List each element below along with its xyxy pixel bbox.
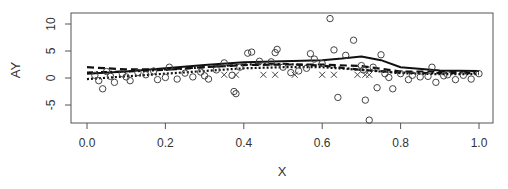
data-point-circle — [99, 86, 105, 92]
data-point-cross — [366, 72, 372, 78]
plot-frame — [71, 13, 493, 123]
x-tick-label: 0.0 — [79, 136, 96, 150]
data-point-circle — [96, 78, 102, 84]
y-axis-label: AY — [8, 61, 23, 78]
data-point-circle — [162, 74, 168, 80]
y-tick-label: -5 — [44, 99, 58, 110]
data-point-circle — [127, 78, 133, 84]
y-axis: -50510 — [44, 17, 71, 110]
data-point-circle — [433, 79, 439, 85]
fit-lines — [87, 56, 479, 79]
data-point-circle — [331, 47, 337, 53]
x-axis: 0.00.20.40.60.81.0 — [79, 123, 488, 150]
data-point-circle — [111, 79, 117, 85]
y-tick-label: 0 — [44, 74, 58, 81]
data-point-circle — [190, 74, 196, 80]
data-point-cross — [319, 72, 325, 78]
x-tick-label: 0.4 — [235, 136, 252, 150]
data-point-cross — [331, 72, 337, 78]
data-point-circle — [405, 76, 411, 82]
data-point-circle — [154, 76, 160, 82]
data-point-cross — [233, 72, 239, 78]
x-axis-label: X — [278, 164, 287, 179]
y-tick-label: 5 — [44, 47, 58, 54]
data-point-circle — [248, 49, 254, 55]
x-tick-label: 1.0 — [471, 136, 488, 150]
data-point-circle — [327, 15, 333, 21]
data-point-circle — [366, 117, 372, 123]
data-point-cross — [221, 72, 227, 78]
data-point-circle — [386, 74, 392, 80]
scatter-plot: 0.00.20.40.60.81.0 -50510 X AY — [0, 0, 508, 189]
data-point-circle — [174, 76, 180, 82]
data-point-circle — [362, 97, 368, 103]
x-tick-label: 0.2 — [157, 136, 174, 150]
x-tick-label: 0.8 — [392, 136, 409, 150]
data-point-circle — [335, 94, 341, 100]
data-point-cross — [354, 72, 360, 78]
data-point-circle — [452, 76, 458, 82]
data-point-circle — [390, 86, 396, 92]
data-point-circle — [350, 37, 356, 43]
data-point-circle — [468, 76, 474, 82]
data-point-cross — [260, 72, 266, 78]
x-tick-label: 0.6 — [314, 136, 331, 150]
data-point-circle — [374, 85, 380, 91]
y-tick-label: 10 — [44, 17, 58, 31]
data-point-circle — [245, 50, 251, 56]
data-point-cross — [272, 72, 278, 78]
data-point-circle — [378, 52, 384, 58]
